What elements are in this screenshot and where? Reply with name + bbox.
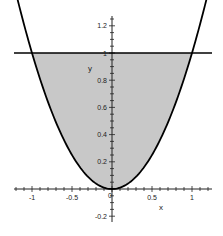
x-tick-label: 1 xyxy=(190,194,194,201)
y-tick-label: 1.2 xyxy=(97,22,107,29)
y-axis-label: y xyxy=(88,64,92,73)
x-tick-label: 0.5 xyxy=(147,194,157,201)
x-tick-label: -0.5 xyxy=(66,194,78,201)
x-tick-label: -1 xyxy=(29,194,35,201)
y-tick-label: 1 xyxy=(103,50,107,57)
y-tick-label: -0.2 xyxy=(95,213,107,220)
y-tick-label: 0.4 xyxy=(97,131,107,138)
chart-plot: -1-0.50.510-0.20.20.40.60.811.2 x y xyxy=(0,0,223,236)
y-tick-label: 0.2 xyxy=(97,158,107,165)
y-tick-label: 0.8 xyxy=(97,77,107,84)
origin-label: 0 xyxy=(108,192,112,199)
x-axis-label: x xyxy=(159,203,163,212)
y-tick-label: 0.6 xyxy=(97,104,107,111)
